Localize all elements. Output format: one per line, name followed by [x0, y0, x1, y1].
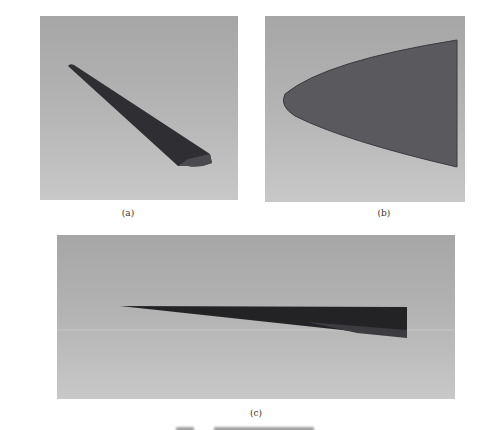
- wedge-side-view-shape: [57, 235, 455, 399]
- panel-c-image: [57, 235, 455, 399]
- panel-b-label: (b): [364, 208, 404, 218]
- parabolic-planform-shape: [265, 16, 465, 202]
- panel-a-image: [40, 16, 238, 200]
- panel-a-label: (a): [108, 208, 148, 218]
- panel-b-image: [265, 16, 465, 202]
- panel-c-label: (c): [236, 408, 276, 418]
- tapered-wing-3d-shape: [40, 16, 238, 200]
